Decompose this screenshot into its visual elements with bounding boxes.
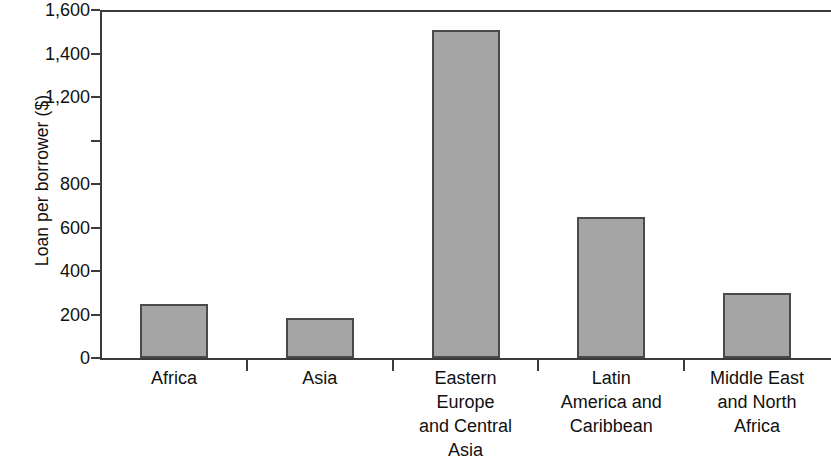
y-axis-tick-label: 600 — [8, 219, 90, 237]
x-axis-category-label: Africa — [101, 366, 247, 390]
x-axis-category-label-line: Eastern — [393, 366, 539, 390]
bar — [432, 30, 500, 358]
y-axis-tick-label: 0 — [8, 349, 90, 367]
x-axis-category-label: Middle Eastand NorthAfrica — [684, 366, 830, 438]
y-axis-tick-mark — [91, 357, 100, 359]
y-axis-tick-label: 1,400 — [8, 45, 90, 63]
x-axis-category-label-line: America and — [538, 390, 684, 414]
x-axis-category-label-line: Africa — [684, 414, 830, 438]
y-axis-tick-mark — [91, 183, 100, 185]
x-axis-category-label-line: Asia — [393, 438, 539, 462]
y-axis-tick-label: 200 — [8, 306, 90, 324]
x-axis-category-label: LatinAmerica andCaribbean — [538, 366, 684, 438]
x-axis-category-label: Asia — [247, 366, 393, 390]
bar-chart: Loan per borrower ($) 02004006008001,200… — [0, 0, 831, 465]
y-axis-tick-label: 400 — [8, 262, 90, 280]
y-axis-tick-mark — [91, 96, 100, 98]
bar — [286, 318, 354, 358]
y-axis-tick-mark — [91, 9, 100, 11]
bar — [140, 304, 208, 358]
x-axis-category-label: EasternEuropeand CentralAsia — [393, 366, 539, 462]
x-axis-category-label-line: and North — [684, 390, 830, 414]
y-axis-tick-mark — [91, 270, 100, 272]
y-axis-tick-mark — [91, 140, 100, 142]
x-axis-category-label-line: and Central — [393, 414, 539, 438]
x-axis-category-label-line: Africa — [101, 366, 247, 390]
x-axis-category-label-line: Asia — [247, 366, 393, 390]
y-axis-tick-mark — [91, 314, 100, 316]
plot-area — [101, 10, 830, 358]
y-axis-tick-label: 1,600 — [8, 1, 90, 19]
y-axis-tick-mark — [91, 227, 100, 229]
y-axis-tick-label: 800 — [8, 175, 90, 193]
bar — [577, 217, 645, 358]
y-axis-tick-label: 1,200 — [8, 88, 90, 106]
x-axis-category-label-line: Caribbean — [538, 414, 684, 438]
x-axis-category-label-line: Europe — [393, 390, 539, 414]
x-axis-category-label-line: Latin — [538, 366, 684, 390]
x-axis-category-label-line: Middle East — [684, 366, 830, 390]
y-axis-tick-labels: 02004006008001,2001,4001,600 — [0, 0, 90, 465]
x-axis-category-labels: AfricaAsiaEasternEuropeand CentralAsiaLa… — [101, 366, 831, 464]
x-axis-line — [100, 358, 831, 360]
y-axis-tick-mark — [91, 53, 100, 55]
bar — [723, 293, 791, 358]
